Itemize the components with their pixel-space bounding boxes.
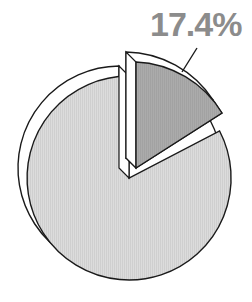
pie-chart	[0, 0, 252, 302]
label-leader-line	[182, 48, 197, 72]
slice-percentage-label: 17.4%	[150, 7, 241, 41]
